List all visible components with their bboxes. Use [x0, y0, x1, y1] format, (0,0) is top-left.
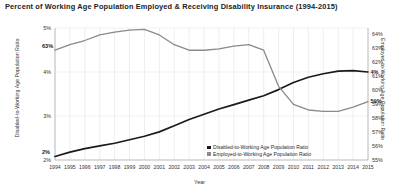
- legend-item-label: Disabled-to-Working Age Population Ratio: [213, 144, 308, 151]
- legend-swatch-icon: [207, 152, 211, 156]
- legend-item[interactable]: Disabled-to-Working Age Population Ratio: [207, 144, 311, 151]
- chart-container: Percent of Working Age Population Employ…: [0, 0, 399, 188]
- series-line: [55, 29, 368, 111]
- x-axis-tick-label: 2015: [358, 164, 378, 170]
- left-axis-tick-label: 5%: [29, 25, 51, 31]
- data-point-label: 63%: [42, 43, 53, 49]
- legend-item[interactable]: Employed-to-Working Age Population Ratio: [207, 151, 311, 158]
- plot-area: [0, 0, 399, 188]
- legend-item-label: Employed-to-Working Age Population Ratio: [213, 151, 311, 158]
- right-axis-tick-label: 58%: [372, 115, 394, 121]
- right-axis-tick-label: 55%: [372, 157, 394, 163]
- left-axis-tick-label: 4%: [29, 69, 51, 75]
- right-axis-tick-label: 63%: [372, 45, 394, 51]
- plot-frame: [55, 28, 368, 160]
- right-axis-tick-label: 56%: [372, 143, 394, 149]
- chart-legend: Disabled-to-Working Age Population Ratio…: [207, 144, 311, 157]
- data-point-label: 2%: [42, 149, 50, 155]
- right-axis-tick-label: 57%: [372, 129, 394, 135]
- data-point-label: 59%: [371, 98, 382, 104]
- right-axis-tick-label: 60%: [372, 87, 394, 93]
- right-axis-tick-label: 62%: [372, 59, 394, 65]
- left-axis-tick-label: 3%: [29, 113, 51, 119]
- left-axis-tick-label: 2%: [29, 157, 51, 163]
- data-point-label: 4%: [371, 69, 379, 75]
- legend-swatch-icon: [207, 146, 211, 150]
- grid-lines: [55, 28, 368, 160]
- right-axis-tick-label: 64%: [372, 31, 394, 37]
- series-lines: [55, 29, 368, 156]
